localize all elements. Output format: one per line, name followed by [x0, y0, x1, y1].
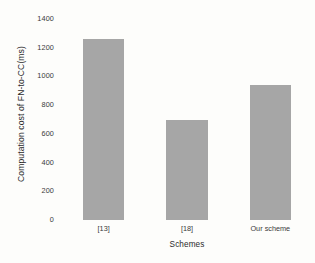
y-axis-tick-label: 800 [20, 101, 54, 109]
bar[interactable] [250, 85, 292, 220]
plot-area [62, 19, 312, 220]
bar-slot [83, 19, 125, 220]
y-axis-tick-label: 400 [20, 159, 54, 167]
y-axis-tick-label: 1200 [20, 44, 54, 52]
y-axis-tick-label: 0 [20, 216, 54, 224]
y-axis-tick-labels: 1400120010008006004002000 [20, 0, 54, 263]
bar[interactable] [83, 39, 125, 220]
x-axis-tick-label: [18] [145, 224, 228, 234]
bar[interactable] [166, 120, 208, 221]
bar-chart-figure: Computation cost of FN-to-CC(ms) 1400120… [0, 0, 315, 263]
y-axis-tick-label: 600 [20, 130, 54, 138]
y-axis-tick-label: 1000 [20, 72, 54, 80]
bar-slot [166, 19, 208, 220]
y-axis-tick-label: 200 [20, 187, 54, 195]
bar-slot [250, 19, 292, 220]
x-axis-title: Schemes [62, 240, 312, 249]
x-axis-tick-labels: [13][18]Our scheme [62, 224, 312, 236]
y-axis-tick-label: 1400 [20, 15, 54, 23]
x-axis-tick-label: Our scheme [229, 224, 312, 234]
x-axis-tick-label: [13] [62, 224, 145, 234]
